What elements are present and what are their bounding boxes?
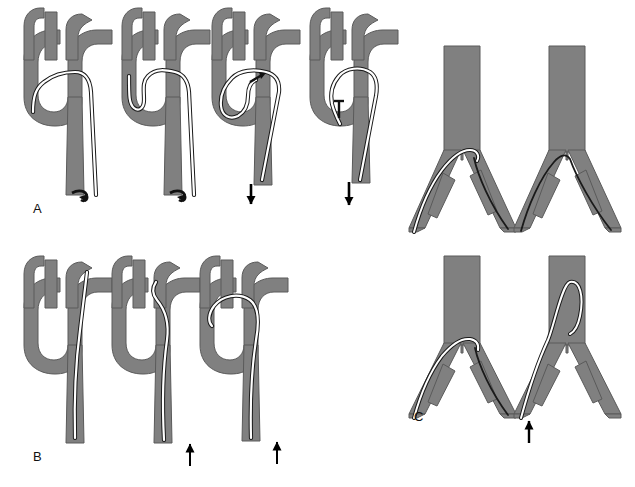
figure-canvas: A: [0, 0, 635, 487]
panel-label-c: C: [414, 409, 424, 424]
panel-label-a: A: [33, 201, 42, 216]
panel-label-b: B: [33, 449, 42, 464]
medical-illustration-figure: A: [0, 0, 635, 487]
